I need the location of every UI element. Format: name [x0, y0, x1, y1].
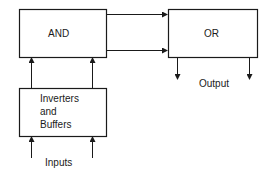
inverters-label-line3: Buffers [40, 118, 72, 131]
inverters-label-line2: and [40, 105, 57, 118]
and-label: AND [48, 27, 69, 40]
output-label: Output [199, 77, 229, 90]
inverters-label-line1: Inverters [40, 92, 79, 105]
inputs-label: Inputs [45, 156, 72, 169]
or-label: OR [204, 27, 219, 40]
